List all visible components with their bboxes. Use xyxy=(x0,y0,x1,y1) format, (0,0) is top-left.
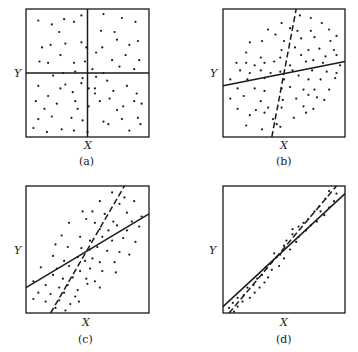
data-point xyxy=(298,226,300,228)
data-point xyxy=(254,292,256,294)
scatter-panel-d: Y X (d) xyxy=(0,0,358,352)
data-point xyxy=(228,307,230,309)
data-point xyxy=(291,233,293,235)
data-point xyxy=(263,281,265,283)
data-point xyxy=(295,241,297,243)
regression-line-dashed xyxy=(229,186,336,313)
data-point xyxy=(320,210,322,212)
data-point xyxy=(278,265,280,267)
data-point xyxy=(333,200,335,202)
data-point xyxy=(249,297,251,299)
data-point xyxy=(259,287,261,289)
data-point xyxy=(241,301,243,303)
data-point xyxy=(291,228,293,230)
data-point xyxy=(328,190,330,192)
data-point xyxy=(273,252,275,254)
y-axis-label: Y xyxy=(209,245,216,256)
data-point xyxy=(267,276,269,278)
data-point xyxy=(302,222,304,224)
data-point xyxy=(289,248,291,250)
regression-line-solid xyxy=(223,194,345,307)
data-point xyxy=(237,306,239,308)
scatter-plot xyxy=(222,185,346,314)
data-point xyxy=(237,297,239,299)
x-axis-label: X xyxy=(280,317,288,328)
data-point xyxy=(335,193,337,195)
panel-caption: (d) xyxy=(276,334,292,345)
data-point xyxy=(283,257,285,259)
data-point xyxy=(271,269,273,271)
data-point xyxy=(232,302,234,304)
data-point xyxy=(285,240,287,242)
data-point xyxy=(246,287,248,289)
